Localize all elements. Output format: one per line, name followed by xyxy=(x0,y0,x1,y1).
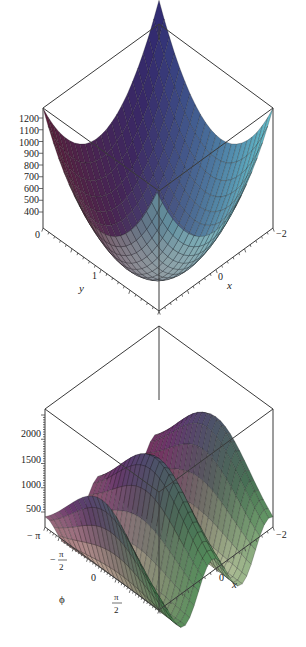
plot-wavy-surface: 2000 1500 1000 500 − π − π 2 0 ϕ π 2 −2 … xyxy=(21,326,287,628)
z-tick-label: 1000 xyxy=(21,479,41,490)
surface-mesh-1 xyxy=(43,0,273,281)
z-tick-label: 500 xyxy=(24,194,39,205)
y-tick-label: 1 xyxy=(92,270,97,281)
plot-bowl-surface: 1200 1100 1000 900 800 700 600 500 400 0… xyxy=(19,0,287,314)
x-tick-label: 0 xyxy=(218,271,223,282)
z-tick-label: 1100 xyxy=(19,125,39,136)
x-tick-label: −2 xyxy=(276,529,287,540)
x-tick-label: 0 xyxy=(219,572,224,583)
y-axis-label: y xyxy=(78,282,84,294)
z-axis-ticks-2 xyxy=(41,415,45,512)
phi-axis-label: ϕ xyxy=(59,593,65,605)
x-axis-label: x xyxy=(226,279,232,291)
z-tick-label: 800 xyxy=(24,160,39,171)
z-axis-ticks-1 xyxy=(39,118,43,212)
z-tick-label: 2000 xyxy=(21,428,41,439)
figure: 1200 1100 1000 900 800 700 600 500 400 0… xyxy=(0,0,306,647)
z-tick-label: 900 xyxy=(24,148,39,159)
y-tick-label: 0 xyxy=(35,229,40,240)
z-tick-label: 700 xyxy=(24,171,39,182)
phi-tick-label: 2 xyxy=(59,562,64,572)
phi-tick-label: − xyxy=(50,554,56,565)
phi-tick-label: 2 xyxy=(114,605,119,615)
z-tick-label: 1200 xyxy=(19,113,39,124)
z-tick-label: 600 xyxy=(24,183,39,194)
phi-tick-label: − π xyxy=(27,530,40,541)
z-tick-label: 500 xyxy=(26,503,41,514)
z-tick-label: 400 xyxy=(24,206,39,217)
x-axis-label: x xyxy=(231,578,237,590)
x-tick-label: −2 xyxy=(276,228,287,239)
z-tick-label: 1000 xyxy=(19,137,39,148)
phi-tick-label: π xyxy=(114,592,119,602)
phi-tick-label: π xyxy=(59,549,64,559)
z-tick-label: 1500 xyxy=(21,454,41,465)
phi-tick-label: 0 xyxy=(91,572,96,583)
